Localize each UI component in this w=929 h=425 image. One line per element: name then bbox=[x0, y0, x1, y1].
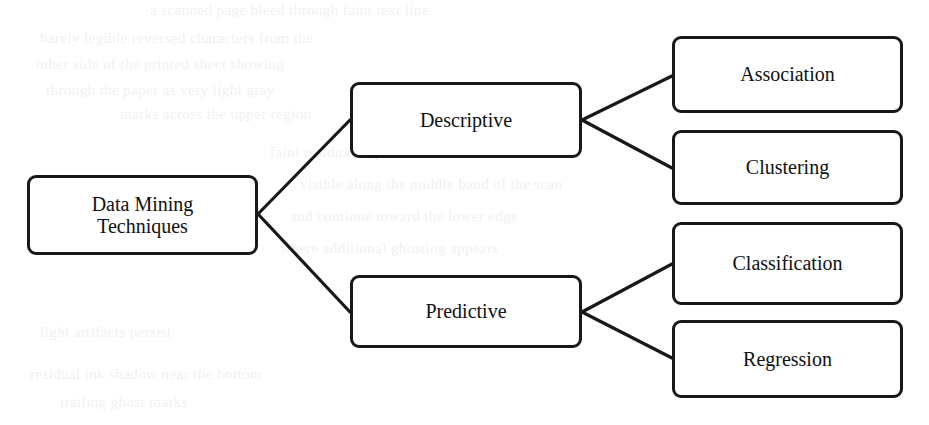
edge-descriptive-clustering bbox=[582, 120, 672, 168]
node-clustering-label: Clustering bbox=[740, 156, 835, 178]
node-classification-label: Classification bbox=[727, 252, 849, 274]
edge-descriptive-association bbox=[582, 76, 672, 120]
edge-root-descriptive bbox=[258, 120, 350, 214]
edge-root-predictive bbox=[258, 214, 350, 312]
node-association-label: Association bbox=[734, 63, 840, 85]
node-association[interactable]: Association bbox=[672, 36, 903, 113]
diagram-canvas: a scanned page bleed through faint text … bbox=[0, 0, 929, 425]
node-predictive[interactable]: Predictive bbox=[350, 275, 582, 348]
node-root[interactable]: Data MiningTechniques bbox=[27, 175, 258, 255]
node-descriptive-label: Descriptive bbox=[414, 109, 518, 131]
node-root-label: Data MiningTechniques bbox=[86, 193, 200, 238]
node-regression[interactable]: Regression bbox=[672, 320, 903, 398]
node-classification[interactable]: Classification bbox=[672, 222, 903, 305]
edge-predictive-classification bbox=[582, 264, 672, 312]
node-predictive-label: Predictive bbox=[419, 300, 512, 322]
node-descriptive[interactable]: Descriptive bbox=[350, 82, 582, 158]
node-regression-label: Regression bbox=[737, 348, 838, 370]
node-clustering[interactable]: Clustering bbox=[672, 130, 903, 205]
edge-predictive-regression bbox=[582, 312, 672, 358]
